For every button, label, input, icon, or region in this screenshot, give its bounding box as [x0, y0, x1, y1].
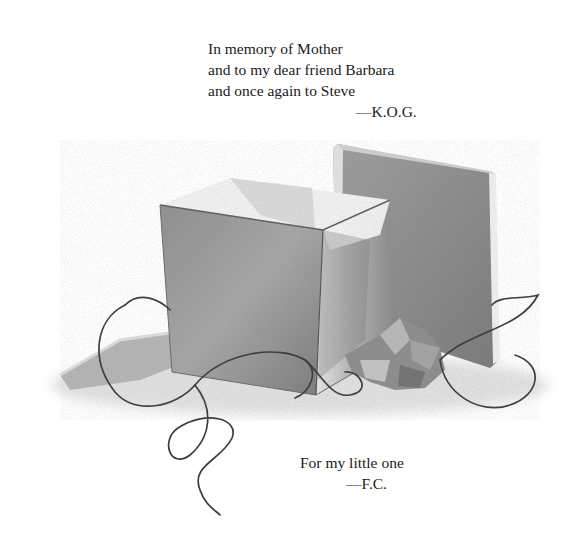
dedication-line: In memory of Mother [208, 38, 394, 59]
pencil-texture [60, 140, 540, 420]
illustrator-dedication: For my little one —F.C. [300, 452, 404, 473]
dedication-line: For my little one [300, 452, 404, 473]
author-dedication: In memory of Mother and to my dear frien… [208, 38, 394, 101]
dedication-line: and once again to Steve [208, 80, 394, 101]
illustrator-signature: —F.C. [346, 473, 387, 494]
dedication-line: and to my dear friend Barbara [208, 59, 394, 80]
author-signature: —K.O.G. [356, 101, 417, 122]
